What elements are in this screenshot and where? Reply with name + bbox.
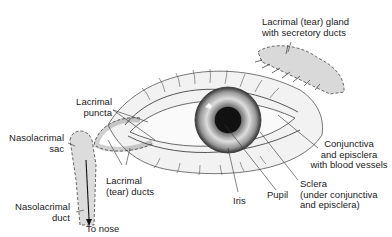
label-iris: Iris [233,196,246,207]
label-to-nose: To nose [86,224,119,235]
nasolacrimal-sac-duct [70,131,96,225]
label-pupil: Pupil [267,190,288,201]
label-lacrimal-ducts: Lacrimal (tear) ducts [106,176,154,197]
label-nasolacrimal-sac: Nasolacrimal sac [2,133,64,154]
label-nasolacrimal-duct: Nasolacrimal duct [2,202,70,223]
label-conjunctiva: Conjunctiva and episclera with blood ves… [306,139,392,171]
label-lacrimal-gland: Lacrimal (tear) gland with secretory duc… [262,17,349,38]
eye-anatomy-diagram: Lacrimal (tear) gland with secretory duc… [0,0,392,237]
label-lacrimal-puncta: Lacrimal puncta [76,97,112,118]
label-sclera: Sclera (under conjunctiva and episclera) [300,179,378,211]
